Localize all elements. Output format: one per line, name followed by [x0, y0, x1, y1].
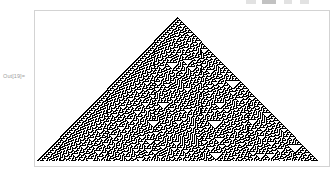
- output-cell-label: Out[19]=: [3, 72, 25, 80]
- output-cell: Out[19]=: [0, 0, 336, 173]
- graphics-frame[interactable]: [34, 10, 330, 167]
- cellular-automaton-canvas: [35, 11, 329, 166]
